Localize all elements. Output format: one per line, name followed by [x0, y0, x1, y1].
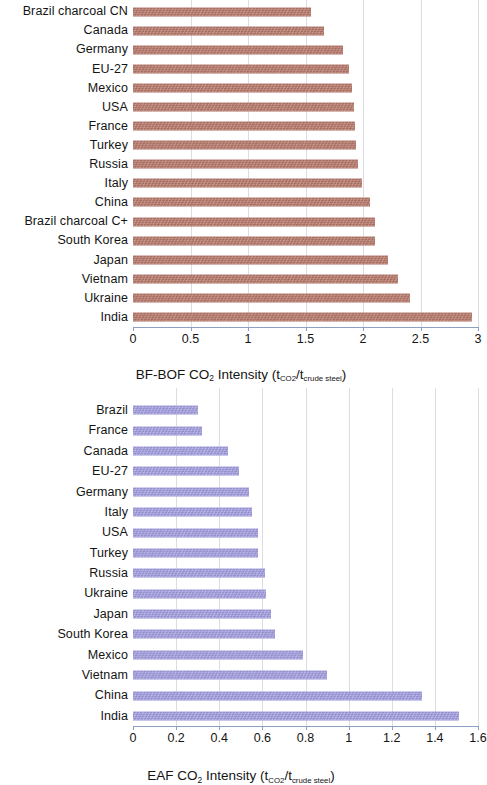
- bar-cell: [133, 250, 482, 269]
- bar-row: Vietnam: [0, 269, 482, 288]
- bar-row: Japan: [0, 604, 482, 624]
- x-axis-tick-label: 0.6: [254, 732, 271, 745]
- x-axis-tick-label: 1: [245, 333, 252, 346]
- category-label: China: [0, 196, 133, 209]
- bar-row: France: [0, 117, 482, 136]
- category-label: Canada: [0, 445, 133, 458]
- category-label: China: [0, 689, 133, 702]
- bar-row: Vietnam: [0, 665, 482, 685]
- bar-cell: [133, 212, 482, 231]
- bar: [133, 691, 422, 700]
- bar: [133, 569, 265, 578]
- x-axis-tick: [306, 726, 307, 730]
- bar-cell: [133, 59, 482, 78]
- plot-area-bf-bof: Brazil charcoal CNCanadaGermanyEU-27Mexi…: [0, 0, 482, 363]
- bar: [133, 179, 362, 188]
- bar-cell: [133, 136, 482, 155]
- x-axis-tick: [191, 327, 192, 331]
- bar-cell: [133, 2, 482, 21]
- bar: [133, 650, 303, 659]
- bar-row: Germany: [0, 40, 482, 59]
- chart-eaf: BrazilFranceCanadaEU-27GermanyItalyUSATu…: [0, 388, 482, 779]
- bar-cell: [133, 604, 482, 624]
- x-axis-tick: [421, 327, 422, 331]
- bar-cell: [133, 193, 482, 212]
- x-axis-tick-label: 2: [360, 333, 367, 346]
- bar: [133, 198, 370, 207]
- bar-row: Ukraine: [0, 288, 482, 307]
- x-axis-tick-label: 0.5: [182, 333, 199, 346]
- x-axis-tick-label: 1.6: [469, 732, 486, 745]
- bar-cell: [133, 685, 482, 705]
- category-label: Turkey: [0, 547, 133, 560]
- bar-row: Italy: [0, 502, 482, 522]
- category-label: France: [0, 120, 133, 133]
- bar-row: China: [0, 193, 482, 212]
- bar-cell: [133, 665, 482, 685]
- category-label: Russia: [0, 567, 133, 580]
- x-axis-tick-label: 0.2: [167, 732, 184, 745]
- bar: [133, 528, 258, 537]
- x-axis-tick: [248, 327, 249, 331]
- x-axis-tick: [478, 726, 479, 730]
- bar: [133, 467, 239, 476]
- category-label: Vietnam: [0, 273, 133, 286]
- bar-cell: [133, 645, 482, 665]
- bar-cell: [133, 502, 482, 522]
- bar: [133, 45, 343, 54]
- bar-cell: [133, 21, 482, 40]
- bar-rows-eaf: BrazilFranceCanadaEU-27GermanyItalyUSATu…: [0, 388, 482, 726]
- x-axis-tick: [478, 327, 479, 331]
- bar-cell: [133, 78, 482, 97]
- bar-row: France: [0, 420, 482, 440]
- bar-cell: [133, 400, 482, 420]
- x-axis-tick: [392, 726, 393, 730]
- category-label: Brazil charcoal C+: [0, 215, 133, 228]
- bar-row: Russia: [0, 563, 482, 583]
- bar: [133, 7, 311, 16]
- category-label: Japan: [0, 608, 133, 621]
- category-label: South Korea: [0, 628, 133, 641]
- bar-row: Japan: [0, 250, 482, 269]
- bar-row: Mexico: [0, 78, 482, 97]
- bar: [133, 217, 375, 226]
- bar: [133, 64, 349, 73]
- x-axis-bf-bof: 00.511.522.53: [0, 327, 482, 363]
- bar-cell: [133, 117, 482, 136]
- bar-row: Italy: [0, 174, 482, 193]
- x-axis-title-eaf: EAF CO2 Intensity (tCO2/tcrude steel): [0, 768, 482, 783]
- bar-row: Brazil charcoal C+: [0, 212, 482, 231]
- x-axis-tick: [349, 726, 350, 730]
- chart-bf-bof: Brazil charcoal CNCanadaGermanyEU-27Mexi…: [0, 0, 482, 388]
- bar: [133, 548, 258, 557]
- category-label: Russia: [0, 158, 133, 171]
- bar: [133, 446, 228, 455]
- x-axis-tick: [219, 726, 220, 730]
- bar: [133, 610, 271, 619]
- bar: [133, 630, 275, 639]
- bar-row: Germany: [0, 482, 482, 502]
- bar-cell: [133, 97, 482, 116]
- bar-cell: [133, 441, 482, 461]
- bar-row: South Korea: [0, 231, 482, 250]
- bar-row: EU-27: [0, 461, 482, 481]
- bar-cell: [133, 584, 482, 604]
- x-axis-tick-label: 1.5: [297, 333, 314, 346]
- x-axis-tick-label: 1.2: [383, 732, 400, 745]
- x-axis-tick: [363, 327, 364, 331]
- category-label: Turkey: [0, 139, 133, 152]
- bar-row: Mexico: [0, 645, 482, 665]
- bar-row: Turkey: [0, 543, 482, 563]
- bar: [133, 671, 327, 680]
- bar-row: USA: [0, 522, 482, 542]
- x-axis-tick-label: 1.4: [426, 732, 443, 745]
- bar-row: Brazil: [0, 400, 482, 420]
- category-label: Germany: [0, 43, 133, 56]
- bar: [133, 406, 198, 415]
- bar-row: China: [0, 685, 482, 705]
- bar-row: India: [0, 308, 482, 327]
- bar-rows-bf-bof: Brazil charcoal CNCanadaGermanyEU-27Mexi…: [0, 0, 482, 327]
- bar-cell: [133, 308, 482, 327]
- bar: [133, 487, 249, 496]
- bar-row: Canada: [0, 441, 482, 461]
